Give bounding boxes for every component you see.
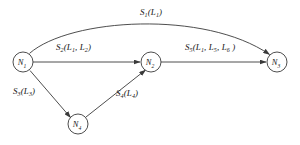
edge-label-s1: S1(L1)	[140, 8, 162, 17]
edge-label-s5: S5(L1, L5, L6 )	[185, 43, 235, 52]
diagram-canvas: N1 N2 N3 N4 S1(L1) S2(L1, L2) S5(L1, L5,…	[0, 0, 300, 145]
edge-label-s1-close: )	[159, 7, 162, 17]
node-n2[interactable]: N2	[141, 52, 161, 72]
node-n3[interactable]: N3	[267, 52, 287, 72]
edge-label-s4-close: )	[135, 88, 138, 98]
node-n4[interactable]: N4	[68, 114, 88, 134]
edge-label-s2: S2(L1, L2)	[56, 43, 91, 52]
edge-label-s5-close: )	[230, 42, 235, 52]
edge-label-s3-close: )	[32, 86, 35, 96]
edge-n1-n4	[30, 71, 71, 118]
edge-label-s2-close: )	[88, 42, 91, 52]
node-n1[interactable]: N1	[13, 52, 33, 72]
edge-label-s4: S4(L4)	[116, 89, 138, 98]
graph-svg: N1 N2 N3 N4	[0, 0, 300, 145]
edge-label-s3: S3(L3)	[13, 87, 35, 96]
